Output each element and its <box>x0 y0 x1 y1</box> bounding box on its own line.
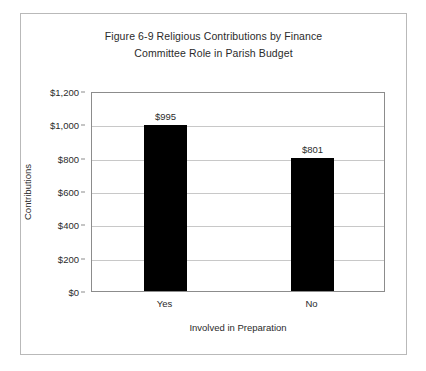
chart-title: Figure 6-9 Religious Contributions by Fi… <box>20 28 407 62</box>
y-axis-tick-label: $1,000 <box>50 120 79 131</box>
bar-value-label: $801 <box>273 144 353 155</box>
y-axis-tick-label: $0 <box>68 287 79 298</box>
x-axis-title: Involved in Preparation <box>91 322 385 333</box>
plot-area: $995$801 <box>91 92 385 292</box>
y-axis-tick-mark <box>81 92 85 93</box>
x-axis-tick-label: No <box>305 298 317 309</box>
y-axis-tick-mark <box>81 192 85 193</box>
bar-value-label: $995 <box>126 111 206 122</box>
chart-title-line-2: Committee Role in Parish Budget <box>20 45 407 62</box>
y-axis-tick-mark <box>81 225 85 226</box>
chart-title-line-1: Figure 6-9 Religious Contributions by Fi… <box>20 28 407 45</box>
y-axis-tick-mark <box>81 258 85 259</box>
y-axis-tick-label: $1,200 <box>50 87 79 98</box>
bar-no <box>291 158 334 292</box>
y-axis-tick-mark <box>81 158 85 159</box>
y-axis-tick-labels: $0$200$400$600$800$1,000$1,200 <box>36 92 85 292</box>
y-axis-tick-label: $800 <box>58 153 79 164</box>
y-axis-tick-label: $400 <box>58 220 79 231</box>
bars-layer: $995$801 <box>92 93 384 291</box>
y-axis-tick-label: $200 <box>58 253 79 264</box>
y-axis-tick-mark <box>81 292 85 293</box>
x-axis-tick-label: Yes <box>157 298 173 309</box>
y-axis-tick-label: $600 <box>58 187 79 198</box>
x-axis-tick-labels: YesNo <box>91 298 385 312</box>
bar-yes <box>144 125 187 291</box>
gridline <box>92 293 384 294</box>
y-axis-tick-mark <box>81 125 85 126</box>
y-axis-title: Contributions <box>22 164 33 220</box>
